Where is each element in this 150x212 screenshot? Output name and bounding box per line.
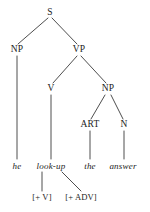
tree-edge-np_object-n — [111, 95, 123, 119]
node-s: S — [47, 8, 52, 18]
feature-plus-v: [+ V] — [32, 193, 51, 202]
syntax-tree-figure: S NP VP V NP ART N he look-up the answer… — [0, 0, 150, 212]
terminal-look-up: look-up — [37, 162, 66, 171]
tree-edges-layer — [0, 0, 150, 212]
node-v: V — [47, 84, 54, 94]
tree-edge-np_object-art — [91, 95, 105, 119]
tree-edge-vp-v — [53, 56, 77, 83]
terminal-the: the — [84, 162, 96, 171]
terminal-he: he — [13, 162, 22, 171]
tree-edge-s-np_subject — [18, 18, 48, 44]
node-n: N — [120, 120, 127, 130]
node-art: ART — [80, 120, 99, 130]
tree-edge-word_lookup-feat_adv — [62, 172, 81, 191]
node-np-object: NP — [102, 84, 115, 94]
feature-plus-adv: [+ ADV] — [65, 193, 97, 202]
tree-edge-vp-np_object — [81, 56, 106, 83]
node-np-subject: NP — [11, 45, 24, 55]
terminal-answer: answer — [109, 162, 136, 171]
node-vp: VP — [73, 45, 86, 55]
tree-edge-s-vp — [52, 18, 77, 44]
